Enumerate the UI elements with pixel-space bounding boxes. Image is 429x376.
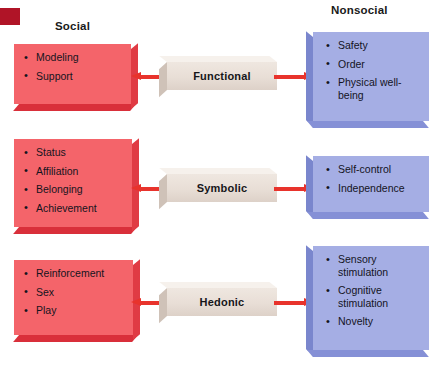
center-block-label: Hedonic [200, 296, 245, 308]
social-item-list: Reinforcement Sex Play [24, 267, 127, 317]
diagram-row: Modeling Support Functional Safety Order… [0, 36, 429, 134]
block-front-face: Functional [167, 62, 277, 90]
nonsocial-item-list: Self-control Independence [326, 163, 423, 194]
list-item: Support [24, 70, 125, 83]
center-block-symbolic: Symbolic [159, 168, 277, 208]
list-item: Self-control [326, 163, 423, 176]
center-block-label: Functional [193, 70, 251, 82]
column-header-nonsocial: Nonsocial [331, 4, 388, 16]
block-front-face: Hedonic [167, 288, 277, 316]
block-left-face [159, 174, 167, 209]
list-item: Play [24, 304, 127, 317]
nonsocial-box: Sensory stimulation Cognitive stimulatio… [313, 246, 429, 350]
block-front-face: Symbolic [167, 174, 277, 202]
list-item: Physical well-being [326, 76, 423, 101]
center-block-label: Symbolic [197, 182, 248, 194]
list-item: Sex [24, 286, 127, 299]
list-item: Status [24, 146, 126, 159]
list-item: Belonging [24, 183, 126, 196]
social-box: Reinforcement Sex Play [14, 260, 133, 335]
nonsocial-box: Safety Order Physical well-being [313, 32, 429, 121]
list-item: Cognitive stimulation [326, 284, 423, 309]
list-item: Sensory stimulation [326, 253, 423, 278]
diagram-row: Reinforcement Sex Play Hedonic Sensory s… [0, 252, 429, 362]
social-box: Modeling Support [14, 44, 131, 104]
diagram-row: Status Affiliation Belonging Achievement… [0, 136, 429, 236]
nonsocial-item-list: Safety Order Physical well-being [326, 39, 423, 101]
social-box: Status Affiliation Belonging Achievement [14, 139, 132, 227]
list-item: Order [326, 58, 423, 71]
nonsocial-box: Self-control Independence [313, 156, 429, 212]
list-item: Novelty [326, 315, 423, 328]
center-block-hedonic: Hedonic [159, 282, 277, 322]
nonsocial-item-list: Sensory stimulation Cognitive stimulatio… [326, 253, 423, 328]
list-item: Independence [326, 182, 423, 195]
list-item: Safety [326, 39, 423, 52]
list-item: Achievement [24, 202, 126, 215]
list-item: Reinforcement [24, 267, 127, 280]
column-header-social: Social [55, 20, 90, 32]
block-left-face [159, 288, 167, 323]
list-item: Modeling [24, 51, 125, 64]
block-left-face [159, 62, 167, 97]
social-item-list: Modeling Support [24, 51, 125, 82]
page-color-marker [0, 8, 20, 25]
center-block-functional: Functional [159, 56, 277, 96]
list-item: Affiliation [24, 165, 126, 178]
social-item-list: Status Affiliation Belonging Achievement [24, 146, 126, 214]
